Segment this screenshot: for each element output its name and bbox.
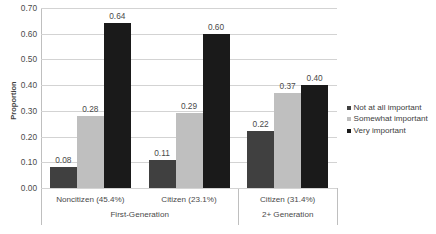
legend-label: Somewhat important — [354, 115, 428, 123]
y-axis-tick-label: 0.30 — [3, 107, 37, 115]
bar[interactable] — [149, 160, 176, 188]
y-axis-tick-label: 0.10 — [3, 158, 37, 166]
gridline — [41, 8, 337, 9]
x-axis-group-separator — [337, 189, 338, 225]
y-axis-tick-label: 0.60 — [3, 30, 37, 38]
legend-item[interactable]: Somewhat important — [347, 114, 428, 126]
x-axis-group-separator — [238, 189, 239, 225]
y-axis-tick-label: 0.20 — [3, 133, 37, 141]
chart-legend: Not at all importantSomewhat importantVe… — [347, 102, 428, 137]
y-axis-tick-label: 0.00 — [3, 184, 37, 192]
bar-value-label: 0.64 — [97, 12, 137, 20]
bar[interactable] — [50, 167, 77, 188]
legend-swatch-icon — [347, 106, 351, 110]
bar[interactable] — [301, 85, 328, 188]
bar-chart: Proportion 0.700.600.500.400.300.200.100… — [0, 0, 436, 234]
bar[interactable] — [247, 131, 274, 188]
x-axis-group-label: First-Generation — [41, 210, 238, 219]
legend-label: Not at all important — [354, 104, 422, 112]
legend-item[interactable]: Not at all important — [347, 102, 428, 114]
bar[interactable] — [77, 116, 104, 188]
y-axis-tick-label: 0.70 — [3, 4, 37, 12]
y-axis-tick-label: 0.50 — [3, 55, 37, 63]
bar[interactable] — [104, 23, 131, 188]
x-axis-group-separator — [41, 189, 42, 225]
x-axis-category-label: Citizen (31.4%) — [228, 195, 348, 204]
legend-swatch-icon — [347, 129, 351, 133]
gridline — [41, 59, 337, 60]
x-axis-group-label: 2+ Generation — [238, 210, 337, 219]
bar[interactable] — [274, 93, 301, 188]
bar[interactable] — [203, 34, 230, 188]
gridline — [41, 34, 337, 35]
plot-area: 0.080.280.640.110.290.600.220.370.40 — [41, 8, 337, 188]
gridline — [41, 188, 337, 189]
y-axis-tick-label: 0.40 — [3, 81, 37, 89]
legend-label: Very important — [354, 127, 406, 135]
legend-item[interactable]: Very important — [347, 125, 428, 137]
legend-swatch-icon — [347, 117, 351, 121]
bar-value-label: 0.60 — [196, 23, 236, 31]
bar[interactable] — [176, 113, 203, 188]
bar-value-label: 0.40 — [295, 74, 335, 82]
